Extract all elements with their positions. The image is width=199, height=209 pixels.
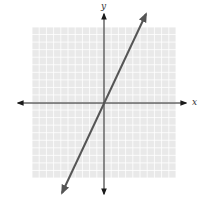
y-axis-label: y (101, 2, 106, 11)
coordinate-plane (0, 0, 199, 209)
x-axis-label: x (192, 98, 197, 107)
